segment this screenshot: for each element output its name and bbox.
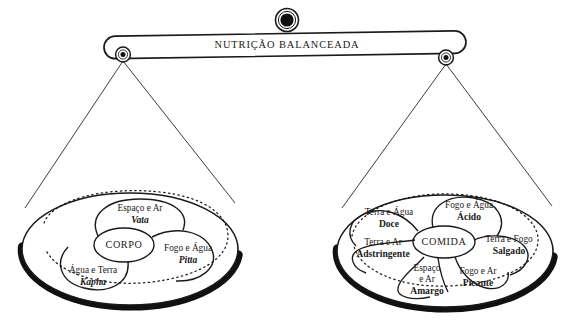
- right-suspension-strings: [342, 64, 552, 208]
- right-lobe-amargo-elements-line1: Espaço: [414, 263, 441, 273]
- right-pan-core-label: COMIDA: [422, 236, 467, 247]
- right-lobe-amargo-name: Amargo: [410, 285, 444, 296]
- right-hanger-pivot-icon: [439, 50, 454, 65]
- right-lobe-doce-name: Doce: [379, 218, 400, 229]
- left-pan: CORPO Espaço e Ar Vata Fogo e Água Pitta…: [22, 191, 238, 306]
- left-hanger-pivot-icon: [116, 47, 131, 62]
- left-lobe-kapha-elements: Água e Terra: [69, 264, 117, 275]
- right-lobe-picante-elements: Fogo e Ar: [459, 266, 497, 276]
- left-lobe-pitta-elements: Fogo e Água: [164, 242, 212, 253]
- left-suspension-strings: [25, 61, 235, 208]
- right-lobe-picante: Fogo e Ar Picante: [459, 266, 497, 288]
- beam-title: NUTRIÇÃO BALANCEADA: [215, 39, 360, 50]
- left-lobe-pitta-name: Pitta: [179, 254, 198, 265]
- right-lobe-doce-elements: Terra e Água: [365, 206, 413, 217]
- right-lobe-acido-name: Ácido: [457, 211, 481, 222]
- right-lobe-adstringente-name: Adstringente: [356, 248, 410, 259]
- top-pivot-icon: [276, 9, 299, 32]
- right-pan: COMIDA Terra e Água Doce Fogo e Água: [337, 194, 553, 308]
- right-lobe-acido-elements: Fogo e Água: [445, 199, 493, 210]
- balance-scale-diagram: NUTRIÇÃO BALANCEADA CORPO: [0, 0, 575, 332]
- right-lobe-picante-name: Picante: [463, 277, 494, 288]
- balance-beam: NUTRIÇÃO BALANCEADA: [104, 31, 466, 59]
- left-pan-core-label: CORPO: [106, 239, 143, 250]
- left-lobe-kapha-name: Kapha: [79, 276, 106, 287]
- right-lobe-amargo-elements-line2: e Ar: [419, 274, 436, 284]
- right-lobe-salgado-elements: Terra e Fogo: [485, 234, 533, 244]
- right-lobe-salgado-name: Salgado: [493, 245, 526, 256]
- right-lobe-adstringente-elements: Terra e Ar: [364, 237, 402, 247]
- left-lobe-vata-elements: Espaço e Ar: [118, 203, 164, 213]
- left-lobe-vata-name: Vata: [131, 214, 149, 225]
